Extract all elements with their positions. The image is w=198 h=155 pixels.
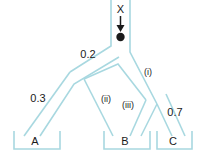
bin-b-label: B	[121, 135, 128, 147]
channel-wall-diamond-upper	[84, 64, 146, 100]
bin-c-label: C	[169, 135, 177, 147]
filled-circle-node	[116, 33, 124, 41]
channel-wall-inlet-left	[70, 0, 111, 72]
edge-label-p-c: 0.7	[167, 106, 182, 118]
path-label-iii: (iii)	[122, 100, 134, 110]
channel-wall-diamond-left	[84, 79, 113, 136]
edge-label-p-left: 0.2	[80, 48, 95, 60]
edge-label-p-a: 0.3	[30, 92, 45, 104]
channel-wall-right-inner	[141, 104, 157, 136]
channel-wall-inlet-right	[130, 0, 157, 104]
down-arrow-icon	[117, 25, 125, 32]
path-label-ii: (ii)	[101, 94, 111, 104]
probability-channel-diagram: X 0.2 0.3 0.7 (i) (ii) (iii) A B C	[0, 0, 198, 155]
path-label-i: (i)	[144, 67, 152, 77]
diagram-canvas: X 0.2 0.3 0.7 (i) (ii) (iii) A B C	[0, 0, 198, 155]
bin-a-label: A	[31, 135, 39, 147]
input-label: X	[117, 3, 125, 15]
